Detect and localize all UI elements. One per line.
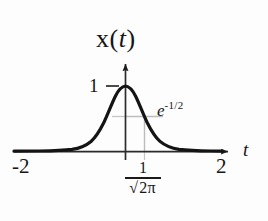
x-tick-label-right: 2: [216, 156, 227, 177]
radical-sign: √: [129, 179, 138, 196]
fraction-numerator: 1: [117, 160, 169, 177]
y-axis-title-close-paren: ): [126, 24, 135, 53]
fraction-denominator: √2π: [117, 180, 169, 196]
y-axis-title-open-paren: (: [110, 24, 119, 53]
gaussian-curve: [14, 86, 222, 151]
peak-tick-label: 1: [89, 76, 99, 95]
y-axis-title-function: x: [96, 24, 110, 53]
radicand: 2π: [138, 178, 156, 196]
x-tick-label-left: -2: [12, 156, 30, 177]
x-position-annotation: 1 √2π: [117, 160, 169, 196]
level-base: e: [157, 101, 165, 120]
y-axis-title: x(t): [96, 26, 136, 52]
level-annotation: e-1/2: [157, 100, 183, 119]
gaussian-pulse-figure: x(t) t 1 -2 2 e-1/2 1 √2π: [0, 0, 268, 221]
x-axis-title: t: [243, 140, 248, 159]
level-exponent: -1/2: [165, 99, 184, 111]
